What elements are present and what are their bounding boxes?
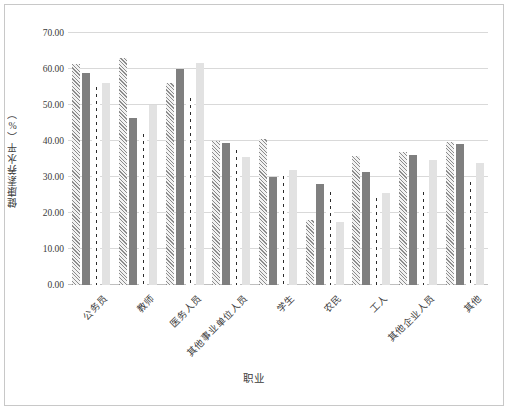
- bar-group: [255, 33, 302, 285]
- bar: [429, 160, 437, 285]
- bar: [372, 194, 380, 285]
- bar: [269, 177, 277, 285]
- y-axis-title: 健康素养水平（%）: [6, 108, 22, 208]
- x-axis-tick-label: 其他企业人员: [384, 291, 438, 345]
- x-axis-tick-label: 学生: [273, 291, 297, 315]
- y-axis-tick-label: 30.00: [22, 172, 64, 182]
- bar: [419, 188, 427, 285]
- y-axis-tick-label: 60.00: [22, 64, 64, 74]
- bar: [119, 58, 127, 285]
- bar: [186, 94, 194, 285]
- bar: [82, 73, 90, 285]
- bar: [222, 143, 230, 285]
- bar: [279, 172, 287, 285]
- y-axis-tick-label: 70.00: [22, 28, 64, 38]
- x-axis-title: 职业: [0, 370, 508, 385]
- bar: [362, 172, 370, 285]
- plot-area: [68, 33, 488, 285]
- bar: [336, 222, 344, 285]
- bar: [139, 130, 147, 285]
- bar-group: [68, 33, 115, 285]
- y-axis-tick-labels: 70.0060.0050.0040.0030.0020.0010.000.00: [22, 24, 64, 294]
- bar: [476, 163, 484, 285]
- y-axis-tick-label: 10.00: [22, 244, 64, 254]
- bar: [259, 139, 267, 285]
- bar: [409, 155, 417, 285]
- bar: [102, 83, 110, 285]
- bar-group: [161, 33, 208, 285]
- bar-group: [301, 33, 348, 285]
- bar: [466, 178, 474, 285]
- bar: [176, 69, 184, 285]
- bar-group: [441, 33, 488, 285]
- x-axis-tick-label: 农民: [320, 291, 344, 315]
- bar: [306, 220, 314, 285]
- bar: [242, 157, 250, 285]
- x-axis-tick-label: 公务员: [79, 291, 111, 323]
- chart-page: 健康素养水平（%） 70.0060.0050.0040.0030.0020.00…: [0, 0, 508, 410]
- bar: [232, 146, 240, 285]
- bar: [456, 144, 464, 285]
- bar: [129, 118, 137, 285]
- bar-group: [395, 33, 442, 285]
- y-axis-tick-label: 40.00: [22, 136, 64, 146]
- bar: [149, 105, 157, 285]
- bar: [166, 83, 174, 285]
- bar: [382, 193, 390, 285]
- x-axis-tick-label: 医务人员: [166, 291, 205, 330]
- bar: [72, 64, 80, 285]
- bar: [92, 83, 100, 285]
- bar: [352, 156, 360, 285]
- x-axis-tick-label: 教师: [133, 291, 157, 315]
- bar: [446, 142, 454, 285]
- bar: [326, 188, 334, 285]
- bar: [212, 141, 220, 285]
- bar: [399, 152, 407, 285]
- x-axis-tick-label: 其他: [460, 291, 484, 315]
- y-axis-tick-label: 20.00: [22, 208, 64, 218]
- bar: [316, 184, 324, 285]
- bar-group: [208, 33, 255, 285]
- x-axis-tick-label: 工人: [367, 291, 391, 315]
- bar: [196, 63, 204, 285]
- y-axis-tick-label: 50.00: [22, 100, 64, 110]
- y-axis-tick-label: 0.00: [22, 280, 64, 290]
- bar-group: [348, 33, 395, 285]
- bar-group: [115, 33, 162, 285]
- bar: [289, 170, 297, 285]
- x-axis-tick-labels: 公务员教师医务人员其他事业单位人员学生农民工人其他企业人员其他: [68, 285, 488, 355]
